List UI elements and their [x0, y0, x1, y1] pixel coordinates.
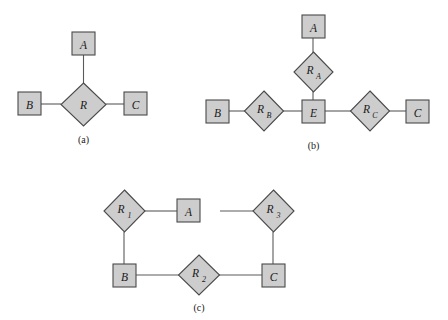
relationship-a-R: R [61, 83, 106, 126]
relationship-label-c-R2: R [191, 267, 199, 279]
relationship-label-a-R: R [79, 99, 87, 111]
entity-a-C: C [124, 92, 147, 115]
entity-label-a-A: A [79, 39, 88, 51]
entity-a-A: A [72, 32, 95, 55]
relationship-sub-b-RA: A [315, 72, 321, 81]
relationship-c-R3: R 3 [253, 190, 294, 232]
entity-label-c-C: C [270, 271, 278, 283]
relationship-label-b-RC: R [362, 103, 370, 115]
entity-a-B: B [18, 92, 41, 115]
er-diagram-figure: A B C R (a) [0, 0, 448, 320]
entity-b-A: A [302, 15, 325, 38]
entity-label-a-C: C [132, 99, 140, 111]
entity-b-E: E [302, 100, 325, 123]
relationship-sub-b-RB: B [267, 111, 272, 120]
entity-c-B: B [113, 264, 136, 287]
relationship-b-RB: R B [245, 91, 284, 131]
panel-caption-a: (a) [78, 134, 89, 146]
panel-a: A B C R (a) [18, 32, 147, 146]
entity-label-c-A: A [184, 206, 193, 218]
relationship-label-b-RB: R [256, 103, 264, 115]
er-diagram-canvas: A B C R (a) [0, 0, 448, 320]
panel-caption-b: (b) [308, 140, 320, 152]
relationship-b-RA: R A [294, 52, 333, 92]
entity-b-C: C [406, 100, 429, 123]
entity-c-C: C [262, 264, 285, 287]
relationship-sub-c-R3: 3 [276, 211, 281, 220]
relationship-c-R2: R 2 [179, 255, 220, 295]
relationship-sub-b-RC: C [372, 111, 378, 120]
relationship-sub-c-R1: 1 [128, 211, 132, 220]
entity-label-b-E: E [309, 107, 317, 119]
entity-b-B: B [206, 100, 229, 123]
panel-caption-c: (c) [193, 302, 204, 314]
entity-label-a-B: B [26, 99, 33, 111]
entity-c-A: A [177, 199, 200, 222]
panel-b: A B C E R A [206, 15, 429, 152]
relationship-sub-c-R2: 2 [202, 275, 206, 284]
entity-label-b-C: C [414, 107, 422, 119]
relationship-c-R1: R 1 [104, 190, 145, 232]
entity-label-b-B: B [214, 107, 221, 119]
panel-c: A B C R 1 R 2 [104, 190, 294, 314]
relationship-label-c-R1: R [116, 203, 124, 215]
relationship-label-c-R3: R [265, 203, 273, 215]
relationship-label-b-RA: R [305, 64, 313, 76]
entity-label-b-A: A [309, 22, 318, 34]
entity-label-c-B: B [121, 271, 128, 283]
relationship-b-RC: R C [351, 91, 390, 131]
